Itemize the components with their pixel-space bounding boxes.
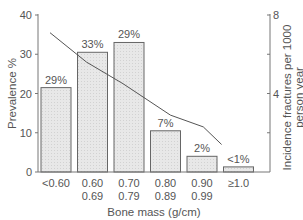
y-tick-label: 10	[20, 127, 32, 139]
y2-tick-label: 8	[273, 9, 279, 21]
bar	[78, 52, 108, 172]
bar	[151, 131, 181, 172]
x-tick-label: ≥1.0	[228, 177, 249, 189]
x-tick-label: 0.90	[191, 177, 212, 189]
bar-value-label: 33%	[81, 38, 103, 50]
bar-value-label: 7%	[158, 117, 174, 129]
y-tick-label: 0	[26, 166, 32, 178]
y2-axis-title: Incidence fractures per 1000	[281, 25, 293, 171]
x-tick-label: 0.69	[82, 190, 103, 202]
bar	[224, 167, 254, 172]
x-tick-label: 0.99	[191, 190, 212, 202]
prevalence-bars	[41, 42, 254, 172]
y-tick-label: 20	[20, 88, 32, 100]
x-tick-label: 0.60	[82, 177, 103, 189]
y-tick-label: 40	[20, 9, 32, 21]
x-tick-label: <0.60	[42, 177, 70, 189]
bar	[114, 42, 144, 172]
y-axis-title: Prevalence %	[6, 58, 18, 129]
x-tick-label: 0.89	[155, 190, 176, 202]
bar-value-label: <1%	[227, 153, 250, 165]
x-tick-label: 0.80	[155, 177, 176, 189]
y-tick-label: 30	[20, 48, 32, 60]
y2-tick-label: 4	[273, 88, 279, 100]
bar-value-label: 2%	[194, 142, 210, 154]
x-axis-title: Bone mass (g/cm)	[107, 206, 200, 218]
bar	[41, 88, 71, 172]
bone-mass-chart: 29%33%29%7%2%<1%01020304048<0.600.600.69…	[0, 0, 303, 220]
bar-value-label: 29%	[118, 28, 140, 40]
x-tick-label: 0.79	[118, 190, 139, 202]
y2-axis-title: person year	[293, 67, 303, 128]
bar-value-label: 29%	[45, 74, 67, 86]
bar	[187, 156, 217, 172]
x-tick-label: 0.70	[118, 177, 139, 189]
